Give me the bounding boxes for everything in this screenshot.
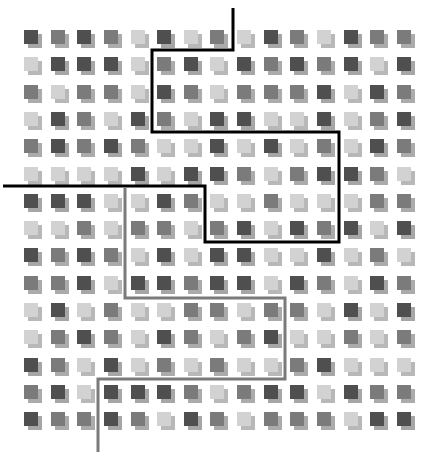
square-face: [397, 112, 411, 126]
square-face: [104, 330, 118, 344]
square-face: [290, 330, 304, 344]
grid-square-dark: [24, 194, 38, 208]
square-face: [184, 30, 198, 44]
square-face: [290, 303, 304, 317]
grid-square-dark: [210, 167, 224, 181]
square-face: [51, 412, 65, 426]
grid-square-medium: [131, 221, 145, 235]
grid-square-medium: [290, 412, 304, 426]
square-face: [131, 358, 145, 372]
grid-square-medium: [157, 221, 171, 235]
square-face: [210, 221, 224, 235]
grid-square-medium: [397, 139, 411, 153]
square-face: [290, 139, 304, 153]
grid-square-light: [51, 167, 65, 181]
grid-square-dark: [317, 358, 331, 372]
square-face: [184, 248, 198, 262]
square-face: [264, 276, 278, 290]
grid-square-dark: [157, 248, 171, 262]
grid-square-dark: [210, 248, 224, 262]
grid-square-medium: [397, 30, 411, 44]
square-grid: [0, 0, 430, 463]
square-face: [184, 139, 198, 153]
square-face: [157, 248, 171, 262]
square-face: [237, 276, 251, 290]
square-face: [210, 85, 224, 99]
grid-square-light: [290, 112, 304, 126]
grid-square-medium: [184, 330, 198, 344]
grid-square-dark: [344, 303, 358, 317]
square-face: [397, 57, 411, 71]
grid-square-light: [317, 30, 331, 44]
grid-square-light: [210, 85, 224, 99]
square-face: [104, 358, 118, 372]
grid-square-medium: [210, 412, 224, 426]
square-face: [104, 385, 118, 399]
grid-square-dark: [131, 276, 145, 290]
square-face: [24, 57, 38, 71]
grid-square-light: [77, 167, 91, 181]
square-face: [131, 57, 145, 71]
square-face: [157, 139, 171, 153]
square-face: [317, 358, 331, 372]
grid-square-light: [157, 139, 171, 153]
square-face: [264, 167, 278, 181]
square-face: [210, 303, 224, 317]
square-face: [397, 330, 411, 344]
square-face: [344, 30, 358, 44]
grid-square-dark: [77, 248, 91, 262]
square-face: [397, 248, 411, 262]
square-face: [157, 30, 171, 44]
square-face: [317, 248, 331, 262]
square-face: [370, 85, 384, 99]
grid-square-dark: [317, 248, 331, 262]
grid-square-medium: [51, 330, 65, 344]
square-face: [77, 57, 91, 71]
grid-square-medium: [104, 303, 118, 317]
square-face: [237, 57, 251, 71]
grid-square-dark: [237, 276, 251, 290]
square-face: [77, 139, 91, 153]
grid-square-dark: [184, 412, 198, 426]
grid-square-dark: [290, 385, 304, 399]
square-face: [157, 385, 171, 399]
grid-square-light: [24, 221, 38, 235]
grid-square-medium: [237, 167, 251, 181]
square-face: [370, 167, 384, 181]
grid-square-dark: [157, 85, 171, 99]
grid-square-light: [370, 221, 384, 235]
square-face: [237, 358, 251, 372]
square-face: [317, 194, 331, 208]
square-face: [290, 385, 304, 399]
square-face: [77, 385, 91, 399]
square-face: [77, 85, 91, 99]
grid-square-light: [77, 358, 91, 372]
grid-square-medium: [290, 85, 304, 99]
square-face: [210, 412, 224, 426]
grid-square-medium: [77, 139, 91, 153]
grid-square-dark: [290, 221, 304, 235]
grid-square-light: [344, 194, 358, 208]
grid-square-light: [264, 248, 278, 262]
square-face: [237, 221, 251, 235]
grid-square-light: [184, 112, 198, 126]
grid-square-medium: [237, 85, 251, 99]
square-face: [237, 303, 251, 317]
square-face: [344, 248, 358, 262]
square-face: [104, 85, 118, 99]
square-face: [397, 412, 411, 426]
grid-square-medium: [370, 112, 384, 126]
square-face: [24, 303, 38, 317]
grid-square-medium: [370, 167, 384, 181]
grid-square-light: [290, 248, 304, 262]
grid-square-dark: [370, 139, 384, 153]
grid-square-light: [24, 112, 38, 126]
square-face: [237, 385, 251, 399]
grid-square-medium: [317, 221, 331, 235]
square-face: [210, 57, 224, 71]
square-face: [370, 248, 384, 262]
square-face: [290, 112, 304, 126]
grid-square-light: [104, 276, 118, 290]
grid-square-medium: [184, 303, 198, 317]
square-face: [264, 112, 278, 126]
